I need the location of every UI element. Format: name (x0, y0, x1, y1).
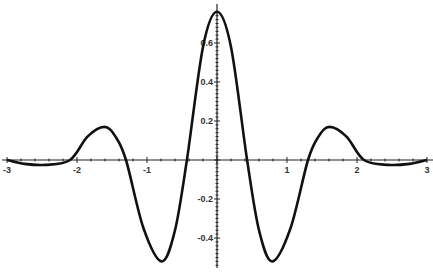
x-tick-label: -2 (73, 165, 81, 175)
y-tick-label: -0.2 (197, 194, 213, 204)
x-tick-label: 2 (354, 165, 359, 175)
y-axis (214, 4, 220, 268)
x-tick-labels: -3-2-1123 (3, 165, 430, 175)
x-tick-label: -1 (143, 165, 151, 175)
y-tick-label: -0.4 (197, 233, 213, 243)
x-tick-label: -3 (3, 165, 11, 175)
x-tick-label: 1 (284, 165, 289, 175)
x-tick-label: 3 (424, 165, 429, 175)
y-tick-label: 0.4 (200, 77, 213, 87)
y-tick-label: 0.2 (200, 116, 213, 126)
chart: -3-2-1123 0.60.40.2-0.2-0.4 (0, 0, 433, 273)
